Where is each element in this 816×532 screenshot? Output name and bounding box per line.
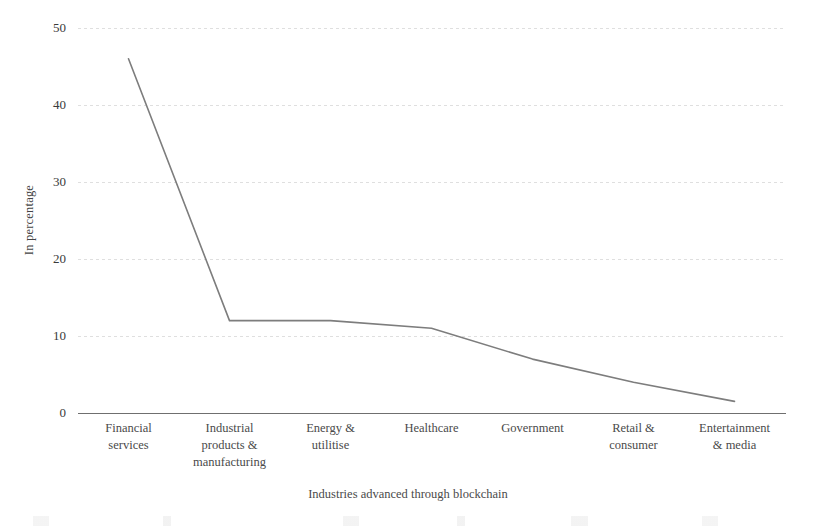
x-axis-tick-label: Retail &consumer (583, 420, 684, 471)
x-axis-tick-label: Entertainment& media (684, 420, 785, 471)
x-axis-tick-label: Financialservices (78, 420, 179, 471)
y-axis-tick-label: 20 (26, 251, 66, 267)
y-axis-title: In percentage (22, 150, 37, 290)
plot-area: 01020304050 (78, 28, 785, 413)
line-chart: In percentage 01020304050 Financialservi… (0, 0, 816, 532)
y-axis-tick-label: 10 (26, 328, 66, 344)
y-axis-tick-label: 30 (26, 174, 66, 190)
x-axis-line (78, 413, 786, 414)
x-axis-tick-labels: FinancialservicesIndustrialproducts &man… (78, 420, 785, 471)
x-axis-tick-label: Energy &utilitise (280, 420, 381, 471)
x-axis-tick-label: Industrialproducts &manufacturing (179, 420, 280, 471)
series-line (78, 28, 785, 413)
y-axis-tick-label: 0 (26, 405, 66, 421)
y-axis-tick-label: 40 (26, 97, 66, 113)
x-axis-tick-label: Government (482, 420, 583, 471)
scan-artifact (0, 516, 816, 526)
y-axis-tick-label: 50 (26, 20, 66, 36)
x-axis-title: Industries advanced through blockchain (0, 487, 816, 502)
x-axis-tick-label: Healthcare (381, 420, 482, 471)
